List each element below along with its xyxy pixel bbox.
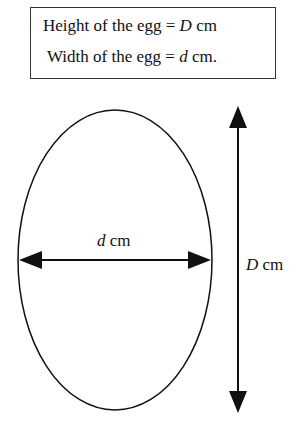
width-label-variable: d bbox=[97, 231, 106, 250]
egg-diagram bbox=[0, 0, 306, 424]
height-label-unit: cm bbox=[263, 255, 284, 274]
width-label: d cm bbox=[97, 231, 131, 251]
arrowhead-left-icon bbox=[19, 251, 42, 269]
width-arrow bbox=[19, 251, 211, 269]
arrowhead-up-icon bbox=[229, 106, 247, 128]
width-label-unit: cm bbox=[110, 231, 131, 250]
arrowhead-right-icon bbox=[188, 251, 211, 269]
height-label-variable: D bbox=[246, 255, 258, 274]
arrowhead-down-icon bbox=[229, 391, 247, 413]
height-label: D cm bbox=[246, 255, 283, 275]
height-arrow bbox=[229, 106, 247, 413]
